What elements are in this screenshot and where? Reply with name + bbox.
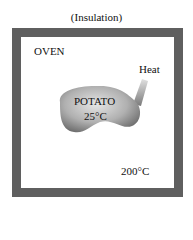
potato-temperature: 25°C (84, 110, 107, 122)
potato-label: POTATO (74, 95, 115, 107)
oven-label: OVEN (34, 45, 65, 57)
oven-temperature: 200°C (121, 165, 149, 177)
heat-label: Heat (139, 63, 160, 75)
